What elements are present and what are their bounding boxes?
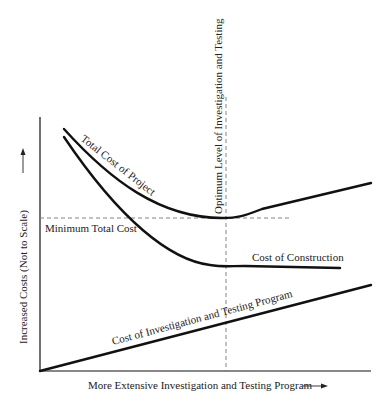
minimum-total-cost-label: Minimum Total Cost	[45, 222, 137, 234]
construction-cost-label: Cost of Construction	[252, 251, 344, 263]
x-axis-label: More Extensive Investigation and Testing…	[88, 379, 313, 391]
investigation-cost-curve	[40, 285, 371, 371]
cost-optimization-diagram: Total Cost of Project Cost of Constructi…	[0, 0, 391, 404]
total-cost-label: Total Cost of Project	[79, 132, 158, 198]
y-axis-label: Increased Costs (Not to Scale)	[17, 210, 30, 344]
optimum-level-label: Optimum Level of Investigation and Testi…	[212, 18, 224, 214]
x-axis-arrow-icon	[321, 384, 328, 389]
investigation-cost-label: Cost of Investigation and Testing Progra…	[110, 287, 293, 347]
y-axis-arrow-icon	[21, 148, 26, 155]
